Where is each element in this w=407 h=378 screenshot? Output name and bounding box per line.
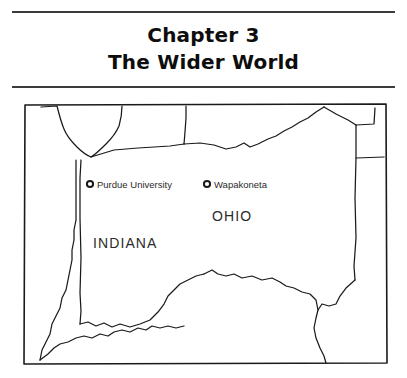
ohio-north-border <box>184 107 324 149</box>
map-figure: Purdue University Wapakoneta INDIANA OHI… <box>18 98 393 370</box>
indiana-north-border <box>91 144 184 157</box>
ohio-south-border <box>204 270 318 310</box>
heading-rule-bottom <box>12 86 395 88</box>
heading-rule-top <box>12 11 395 13</box>
ohio-pennsylvania-border <box>354 125 356 280</box>
page-root: Chapter 3 The Wider World <box>0 0 407 378</box>
map-frame <box>24 104 387 364</box>
purdue-university-label: Purdue University <box>97 179 172 190</box>
pennsylvania-sliver <box>356 108 375 125</box>
lake-erie-shoreline <box>324 107 356 125</box>
page-title: Chapter 3 The Wider World <box>0 22 407 76</box>
indiana-south-border <box>40 326 184 360</box>
chapter-number-line: Chapter 3 <box>147 23 259 47</box>
purdue-university-marker <box>87 181 93 187</box>
northeast-corner-line <box>356 157 384 158</box>
state-label-indiana: INDIANA <box>93 235 158 251</box>
chapter-title-line: The Wider World <box>0 49 407 76</box>
map-illustration: Purdue University Wapakoneta INDIANA OHI… <box>18 98 393 370</box>
indiana-southeast-border <box>80 274 204 327</box>
lake-michigan-shoreline <box>41 106 122 157</box>
indiana-ohio-border <box>80 160 81 324</box>
state-label-ohio: OHIO <box>212 208 252 224</box>
wabash-river-border <box>40 160 76 360</box>
wapakoneta-marker <box>204 181 210 187</box>
ohio-west-border <box>184 106 186 144</box>
wapakoneta-label: Wapakoneta <box>214 179 268 190</box>
ohio-east-border <box>314 280 355 363</box>
